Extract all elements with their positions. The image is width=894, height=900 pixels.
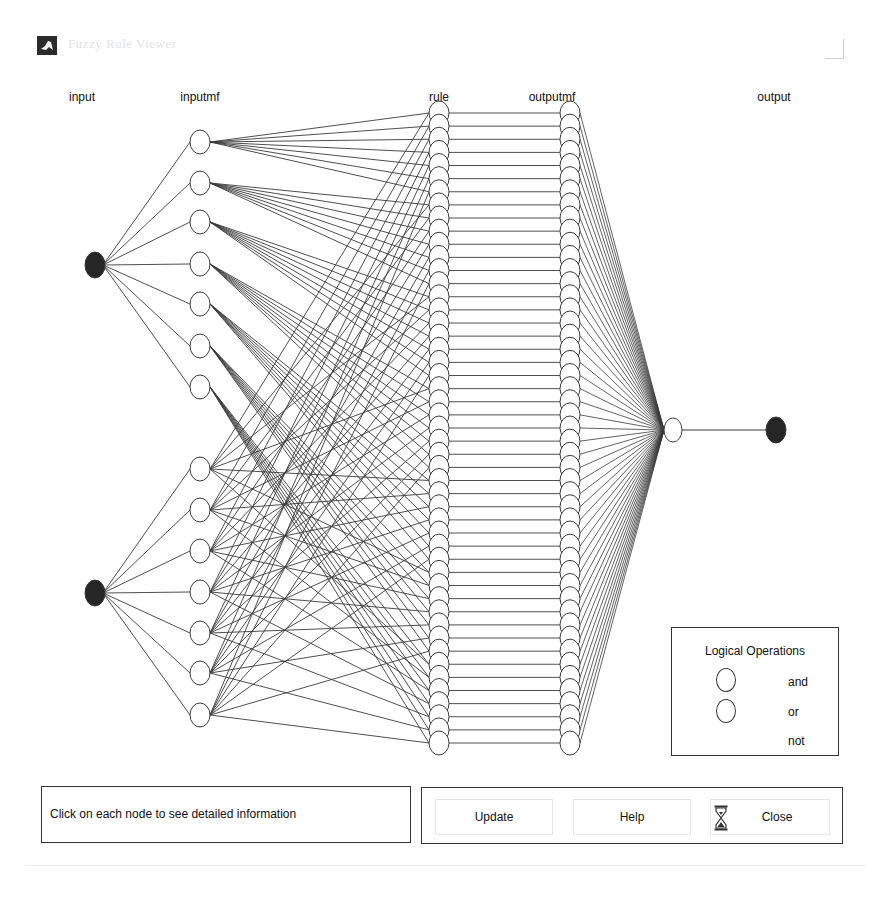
inputmf-node-2-3[interactable] [190,539,210,563]
rule-node-49[interactable] [429,731,449,755]
inputmf-node-1-7[interactable] [190,375,210,399]
info-text: Click on each node to see detailed infor… [50,807,296,821]
inputmf-node-1-5[interactable] [190,292,210,316]
help-button-label: Help [620,810,645,824]
close-button[interactable]: Close [710,799,830,835]
inputmf-node-2-6[interactable] [190,661,210,685]
outputmf-node-49[interactable] [560,731,580,755]
hourglass-icon [714,805,728,834]
output-node[interactable] [766,417,786,443]
and-node-icon [716,668,736,692]
inputmf-node-2-7[interactable] [190,703,210,727]
inputmf-node-1-2[interactable] [190,171,210,195]
inputmf-node-1-6[interactable] [190,334,210,358]
help-button[interactable]: Help [573,799,691,835]
button-panel: Update Help Close [421,787,843,844]
input-node-2[interactable] [85,580,105,606]
update-button-label: Update [475,810,514,824]
info-panel: Click on each node to see detailed infor… [41,786,411,843]
inputmf-node-1-1[interactable] [190,130,210,154]
legend-label-or: or [788,705,799,719]
inputmf-node-2-2[interactable] [190,498,210,522]
logical-operations-legend: Logical Operations and or not [671,627,839,756]
legend-title: Logical Operations [672,644,838,658]
update-button[interactable]: Update [435,799,553,835]
inputmf-node-1-4[interactable] [190,252,210,276]
inputmf-node-2-4[interactable] [190,580,210,604]
inputmf-node-2-1[interactable] [190,457,210,481]
or-node-icon [716,699,736,723]
legend-label-not: not [788,734,805,748]
bottom-divider [25,865,865,866]
inputmf-node-1-3[interactable] [190,210,210,234]
aggregation-node[interactable] [664,418,682,442]
legend-label-and: and [788,675,808,689]
close-button-label: Close [762,810,793,824]
inputmf-node-2-5[interactable] [190,621,210,645]
input-node-1[interactable] [85,252,105,278]
